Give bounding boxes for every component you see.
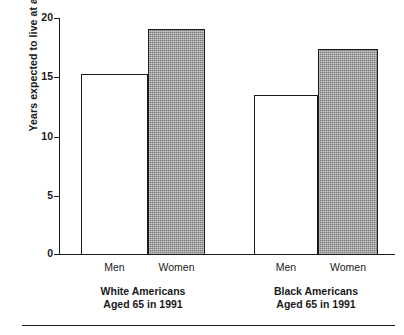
- group-label-black: Black Americans Aged 65 in 1991: [236, 285, 396, 312]
- bar-chart-figure: Years expected to live at age 65 20 15 1…: [0, 0, 404, 335]
- y-tick-label-10: 10: [23, 131, 53, 142]
- y-tick-label-5: 5: [23, 190, 53, 201]
- plot-area: 20 15 10 5 0: [59, 18, 395, 255]
- bar-black-women: [318, 49, 378, 255]
- bar-white-men: [81, 74, 148, 255]
- category-label-black-men: Men: [254, 262, 318, 274]
- group-label-white-line2: Aged 65 in 1991: [63, 298, 223, 311]
- bar-black-men: [254, 95, 318, 255]
- category-label-black-women: Women: [318, 262, 378, 274]
- y-tick-10: [54, 137, 60, 138]
- y-tick-5: [54, 196, 60, 197]
- group-label-black-line1: Black Americans: [236, 285, 396, 298]
- category-label-white-men: Men: [81, 262, 148, 274]
- y-tick-label-15: 15: [23, 71, 53, 82]
- group-label-white: White Americans Aged 65 in 1991: [63, 285, 223, 312]
- bar-white-women: [148, 29, 205, 255]
- y-tick-15: [54, 77, 60, 78]
- group-label-white-line1: White Americans: [63, 285, 223, 298]
- y-tick-0: [54, 254, 60, 255]
- category-label-white-women: Women: [148, 262, 205, 274]
- group-label-black-line2: Aged 65 in 1991: [236, 298, 396, 311]
- y-tick-20: [54, 18, 60, 19]
- y-tick-label-0: 0: [23, 248, 53, 259]
- y-tick-label-20: 20: [23, 12, 53, 23]
- bottom-divider-rule: [22, 325, 395, 326]
